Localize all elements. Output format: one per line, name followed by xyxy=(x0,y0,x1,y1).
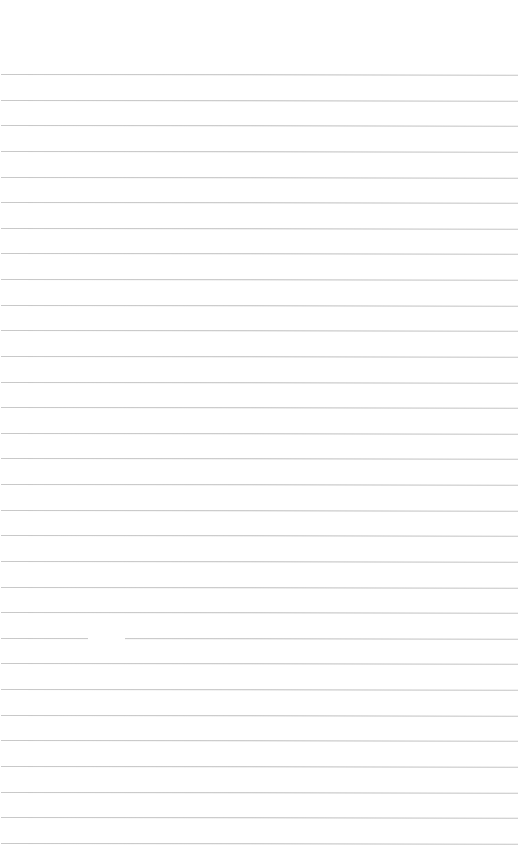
ruled-line xyxy=(1,792,518,794)
ruled-line xyxy=(1,638,518,640)
ruled-line xyxy=(1,817,518,819)
ruled-line xyxy=(1,612,518,614)
ruled-line xyxy=(1,151,518,153)
ruled-line xyxy=(1,843,518,845)
ruled-line xyxy=(1,561,518,563)
ruled-line xyxy=(1,125,518,127)
ruled-line xyxy=(1,253,518,255)
ruled-line xyxy=(1,356,518,358)
ruled-line xyxy=(1,100,518,102)
ruled-line xyxy=(1,715,518,717)
ruled-line xyxy=(1,740,518,742)
ruled-line xyxy=(1,510,518,512)
ruled-line xyxy=(1,458,518,460)
ruled-line xyxy=(1,663,518,665)
ruled-line xyxy=(1,279,518,281)
ruled-line xyxy=(1,689,518,691)
ruled-line xyxy=(1,305,518,307)
ruled-line xyxy=(1,330,518,332)
ruled-line xyxy=(1,433,518,435)
line-gap xyxy=(88,637,125,640)
ruled-line xyxy=(1,407,518,409)
ruled-line xyxy=(1,228,518,230)
ruled-line xyxy=(1,535,518,537)
ruled-line xyxy=(1,74,518,76)
ruled-line xyxy=(1,766,518,768)
ruled-line xyxy=(1,484,518,486)
ruled-line xyxy=(1,587,518,589)
lined-paper-page xyxy=(0,0,523,863)
ruled-line xyxy=(1,382,518,384)
ruled-line xyxy=(1,202,518,204)
ruled-line xyxy=(1,177,518,179)
